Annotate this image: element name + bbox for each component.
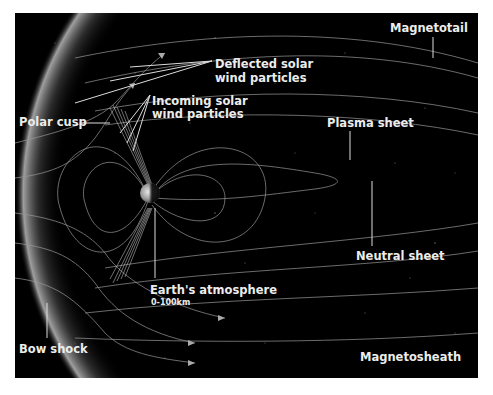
label-plasma-sheet: Plasma sheet — [327, 116, 414, 130]
magnetosphere-diagram: Magnetotail Deflected solar wind particl… — [15, 13, 478, 378]
label-magnetotail: Magnetotail — [390, 21, 468, 35]
label-incoming-1: Incoming solar — [152, 94, 248, 108]
label-deflected-2: wind particles — [215, 71, 307, 85]
label-neutral-sheet: Neutral sheet — [356, 249, 445, 263]
label-incoming-2: wind particles — [152, 107, 244, 121]
label-magnetosheath: Magnetosheath — [360, 350, 461, 364]
label-atmosphere-range: 0-100km — [151, 298, 190, 308]
label-polar-cusp: Polar cusp — [19, 115, 87, 129]
label-deflected-1: Deflected solar — [215, 57, 313, 71]
label-earths-atmosphere: Earth's atmosphere — [150, 283, 277, 297]
label-bow-shock: Bow shock — [19, 342, 88, 356]
